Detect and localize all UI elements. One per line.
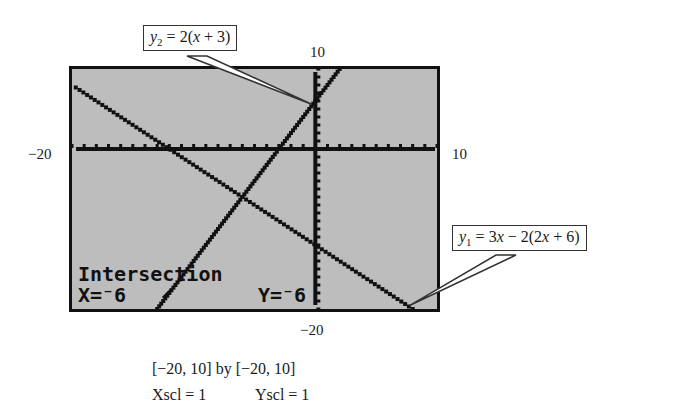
series-y1-point (388, 292, 392, 296)
series-y1-point (263, 210, 267, 214)
series-y1-point (119, 115, 123, 119)
series-y1-point (89, 95, 93, 99)
series-y1-point (324, 250, 328, 254)
series-y1-point (312, 242, 316, 246)
series-y1-point (271, 215, 275, 219)
series-y1-point (142, 130, 146, 134)
series-y1-point (96, 100, 100, 104)
series-y1-point (157, 140, 161, 144)
series-y1-point (85, 93, 89, 97)
yscl-caption: Yscl = 1 (255, 386, 309, 404)
series-y1-point (384, 290, 388, 294)
series-y1-point (346, 265, 350, 269)
series-y1-point (301, 235, 305, 239)
y1-equation-callout: y1 = 3x − 2(2x + 6) (452, 225, 587, 251)
series-y1-point (161, 143, 165, 147)
series-y1-point (259, 207, 263, 211)
series-y1-point (399, 300, 403, 304)
series-y1-point (233, 190, 237, 194)
series-y1-point (78, 88, 82, 92)
series-y1-point (112, 110, 116, 114)
series-y1-point (339, 260, 343, 264)
series-y1-point (252, 202, 256, 206)
series-y1-point (195, 165, 199, 169)
series-y1-point (396, 297, 400, 301)
y2-equation-callout: y2 = 2(x + 3) (143, 25, 237, 51)
series-y1-point (305, 237, 309, 241)
y-max-label: 10 (310, 44, 325, 61)
series-y1-point (358, 272, 362, 276)
series-y1-point (320, 247, 324, 251)
x-max-label: 10 (452, 146, 467, 163)
series-y1-point (108, 108, 112, 112)
y2-rest: = 2( (163, 28, 193, 45)
series-y1-point (115, 113, 119, 117)
series-y1-point (354, 270, 358, 274)
series-y1-point (350, 267, 354, 271)
series-y1-point (172, 150, 176, 154)
series-y1-point (229, 188, 233, 192)
y2-x: x (193, 28, 200, 45)
series-y1-point (335, 257, 339, 261)
series-y1-point (104, 105, 108, 109)
graph-plot (0, 0, 679, 414)
series-y1-point (191, 163, 195, 167)
series-y1-point (165, 145, 169, 149)
series-y1-point (308, 240, 312, 244)
series-y1-point (297, 232, 301, 236)
y2-callout-pointer (187, 56, 312, 104)
series-y1-point (184, 158, 188, 162)
series-y1-point (134, 125, 138, 129)
series-y1-point (187, 160, 191, 164)
series-y1-point (206, 173, 210, 177)
series-y1-point (81, 90, 85, 94)
y1-callout-pointer (409, 255, 516, 306)
series-y1-point (127, 120, 131, 124)
y-readout: Y=⁻6 (258, 283, 306, 307)
series-y1-point (131, 123, 135, 127)
series-y1-point (93, 98, 97, 102)
series-y1-point (343, 262, 347, 266)
series-y1-point (392, 295, 396, 299)
series-y1-point (286, 225, 290, 229)
series-y1-point (327, 252, 331, 256)
xscl-caption: Xscl = 1 (152, 386, 206, 404)
series-y1-point (199, 168, 203, 172)
series-y1-point (255, 205, 259, 209)
series-y1-point (331, 255, 335, 259)
x-readout: X=⁻6 (78, 283, 126, 307)
series-y1-point (377, 285, 381, 289)
series-y1-point (316, 245, 320, 249)
series-y1-point (282, 222, 286, 226)
series-y1-point (290, 227, 294, 231)
series-y1-point (225, 185, 229, 189)
series-y1-point (149, 135, 153, 139)
series-y1-point (365, 277, 369, 281)
y1-mid: − 2(2 (504, 228, 542, 245)
y1-rest: = 3 (472, 228, 497, 245)
series-y1-point (74, 85, 78, 89)
y1-tail: + 6) (549, 228, 579, 245)
series-y1-point (267, 212, 271, 216)
series-y1-point (210, 175, 214, 179)
x-min-label: −20 (28, 146, 51, 163)
series-y1-point (248, 200, 252, 204)
series-y1-point (278, 220, 282, 224)
series-y1-point (244, 197, 248, 201)
series-y1-point (168, 148, 172, 152)
y2-tail: + 3) (200, 28, 230, 45)
series-y1-point (237, 193, 241, 197)
series-y1-point (274, 217, 278, 221)
series-y1-point (180, 155, 184, 159)
series-y1-point (214, 178, 218, 182)
series-y1-point (369, 280, 373, 284)
series-y2-point (338, 67, 342, 71)
series-y1-point (411, 307, 415, 311)
series-y1-point (153, 138, 157, 142)
series-y1-point (221, 183, 225, 187)
series-y1-point (176, 153, 180, 157)
series-y1-point (123, 118, 127, 122)
y1-x: x (497, 228, 504, 245)
series-y1-point (138, 128, 142, 132)
series-y1-point (100, 103, 104, 107)
